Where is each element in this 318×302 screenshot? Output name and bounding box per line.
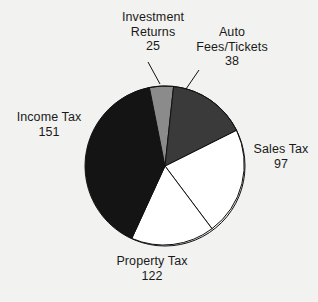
leader-line-auto-fees-tickets <box>186 70 199 89</box>
pie-label-auto-fees-tickets: Auto Fees/Tickets 38 <box>186 25 278 69</box>
pie-label-sales-tax: Sales Tax 97 <box>246 142 316 171</box>
pie-chart-figure: Investment Returns 25 Auto Fees/Tickets … <box>0 0 318 302</box>
pie-label-income-tax: Income Tax 151 <box>6 110 92 139</box>
leader-line-investment-returns <box>148 62 160 84</box>
pie-label-property-tax: Property Tax 122 <box>98 254 206 283</box>
pie-label-investment-returns: Investment Returns 25 <box>108 10 198 54</box>
